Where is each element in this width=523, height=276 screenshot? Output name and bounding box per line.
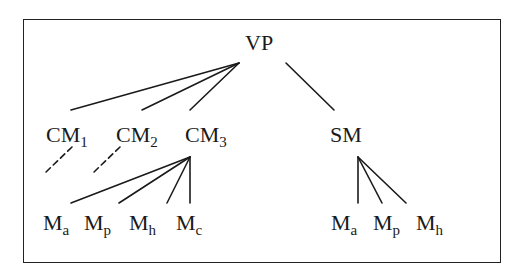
node-sm: SM (330, 124, 362, 146)
node-subscript: 3 (219, 134, 227, 150)
node-label: CM (116, 122, 150, 147)
edge-cm1-elided (46, 147, 72, 172)
node-label: CM (46, 122, 80, 147)
node-cm3-ma: Ma (43, 212, 69, 234)
node-label: M (84, 210, 104, 235)
node-label: SM (330, 122, 362, 147)
node-label: M (416, 210, 436, 235)
node-subscript: p (104, 222, 112, 238)
node-cm3-mh: Mh (129, 212, 156, 234)
node-label: M (129, 210, 149, 235)
node-label: VP (245, 30, 273, 55)
node-label: CM (185, 122, 219, 147)
node-subscript: c (196, 222, 203, 238)
node-cm3-mp: Mp (84, 212, 111, 234)
node-sm-mh: Mh (416, 212, 443, 234)
edge-sm-mp (358, 157, 382, 203)
node-sm-ma: Ma (331, 212, 357, 234)
edge-cm2-elided (94, 147, 120, 172)
node-subscript: p (393, 222, 401, 238)
node-subscript: 1 (80, 134, 88, 150)
node-subscript: a (63, 222, 70, 238)
node-sm-mp: Mp (373, 212, 400, 234)
node-label: M (176, 210, 196, 235)
node-subscript: h (149, 222, 157, 238)
node-cm3: CM3 (185, 124, 227, 146)
node-vp: VP (245, 32, 273, 54)
node-subscript: h (436, 222, 444, 238)
node-subscript: a (351, 222, 358, 238)
node-cm2: CM2 (116, 124, 158, 146)
node-subscript: 2 (150, 134, 158, 150)
node-label: M (43, 210, 63, 235)
edge-sm-mh (358, 157, 406, 203)
node-cm3-mc: Mc (176, 212, 202, 234)
node-cm1: CM1 (46, 124, 88, 146)
node-label: M (331, 210, 351, 235)
node-label: M (373, 210, 393, 235)
edge-vp-sm (286, 63, 334, 110)
